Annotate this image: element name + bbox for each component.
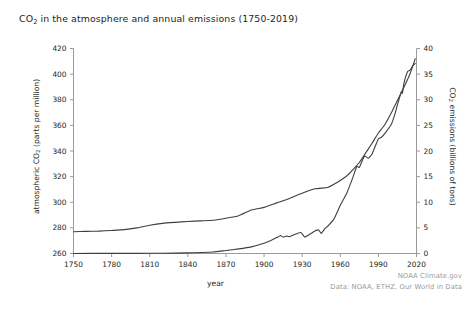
series-line-co2-concentration bbox=[74, 59, 416, 232]
series-line-annual-emissions bbox=[74, 63, 416, 253]
credit-noaa: NOAA Climate.gov bbox=[398, 272, 462, 280]
credit-data-source: Data: NOAA, ETHZ, Our World in Data bbox=[330, 283, 462, 291]
chart-figure: CO2 in the atmosphere and annual emissio… bbox=[0, 0, 474, 310]
axis-spines bbox=[74, 49, 417, 254]
plot-area bbox=[0, 0, 474, 310]
axis-tickmarks bbox=[70, 49, 420, 258]
